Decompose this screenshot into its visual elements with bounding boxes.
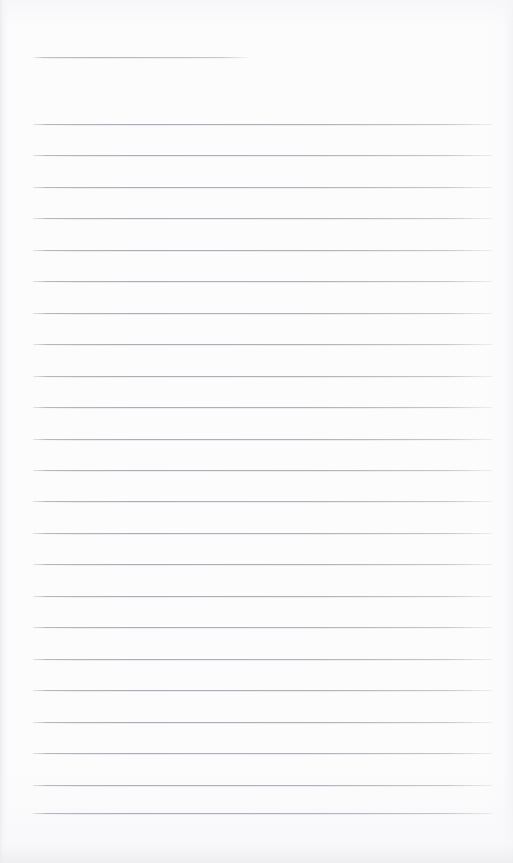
ruled-line: [33, 344, 492, 345]
ruled-line: [33, 785, 492, 786]
ruled-line: [33, 753, 492, 754]
ruled-line: [33, 722, 492, 723]
title-rule: [33, 57, 248, 58]
ruled-line: [33, 659, 492, 660]
ruled-line: [33, 439, 492, 440]
ruled-line: [33, 250, 492, 251]
ruled-line: [33, 281, 492, 282]
ruled-line: [33, 376, 492, 377]
ruled-line: [33, 313, 492, 314]
ruled-line: [33, 124, 492, 125]
ruled-line: [33, 564, 492, 565]
ruled-line: [33, 187, 492, 188]
ruled-line: [33, 533, 492, 534]
ruled-line: [33, 218, 492, 219]
ruled-line: [33, 690, 492, 691]
ruled-line: [33, 155, 492, 156]
ruled-lines-layer: [0, 0, 513, 863]
ruled-line: [33, 501, 492, 502]
ruled-line: [33, 407, 492, 408]
scanned-page: [0, 0, 513, 863]
ruled-line: [33, 596, 492, 597]
ruled-line: [33, 470, 492, 471]
ruled-line: [33, 813, 492, 814]
ruled-line: [33, 627, 492, 628]
